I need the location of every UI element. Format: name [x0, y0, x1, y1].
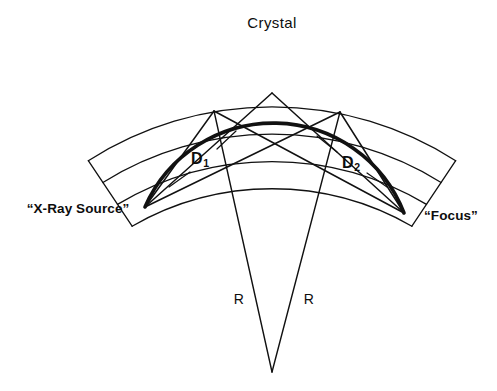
radius-label-right: R — [304, 292, 314, 306]
d2-label: D2 — [342, 155, 360, 171]
d1-base: D — [191, 150, 203, 167]
d1-subscript: 1 — [203, 157, 209, 169]
xray-crystal-diagram: Crystal “X-Ray Source” “Focus” D1 D2 R R — [0, 0, 497, 391]
radius-line-right — [272, 112, 340, 372]
x-ray-source-label: “X-Ray Source” — [27, 202, 130, 216]
diagram-canvas — [0, 0, 497, 391]
focus-label: “Focus” — [424, 209, 478, 223]
d2-subscript: 2 — [354, 161, 360, 173]
crystal-endcap-left — [88, 161, 132, 227]
d2-base: D — [342, 154, 354, 171]
crystal-title-label: Crystal — [247, 15, 296, 30]
radius-label-left: R — [234, 292, 244, 306]
ray-bundle — [145, 93, 404, 213]
rowland-circle-thin-arc — [145, 123, 404, 213]
d1-label: D1 — [191, 151, 209, 167]
radius-lines — [214, 111, 340, 372]
rowland-circle — [145, 123, 404, 213]
leader-d1-lower — [169, 172, 190, 187]
rowland-circle-thick-arc — [145, 123, 404, 213]
